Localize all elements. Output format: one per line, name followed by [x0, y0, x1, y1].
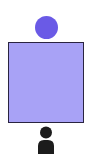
person-head — [40, 127, 52, 139]
person-body — [38, 140, 54, 154]
top-circle — [35, 16, 58, 39]
person-icon — [36, 126, 56, 154]
main-square — [8, 42, 84, 123]
